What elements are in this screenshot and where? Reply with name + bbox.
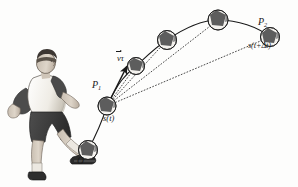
label-p2: P2 [258,17,267,28]
label-s-of-t-plus-delta-t: s(t+Δt) [248,42,271,50]
trajectory-curve [88,20,270,150]
physics-figure-projectile: P1 P2 s(t) s(t+Δt) O vτ [0,0,298,187]
ball-position-1 [127,58,147,80]
ball-position-3 [208,10,231,35]
label-p1: P1 [92,80,101,91]
label-velocity-tau: vτ [117,54,124,63]
figure-canvas [0,0,298,187]
label-s-of-t: s(t) [103,114,114,123]
label-origin: O [77,157,84,167]
ball-position-2 [157,31,178,55]
